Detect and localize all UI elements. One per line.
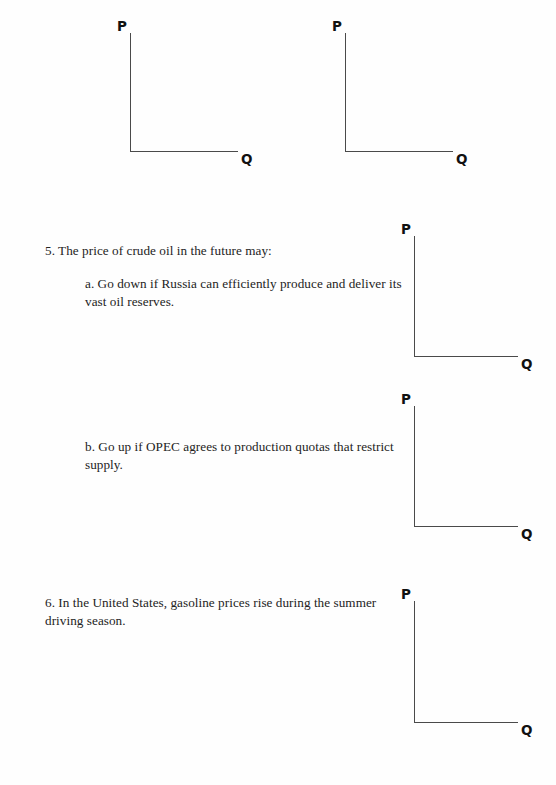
worksheet-page: P Q P Q 5. The price of crude oil in the… (0, 0, 556, 785)
price-axis-line (345, 33, 346, 152)
price-axis-line (130, 33, 131, 152)
question-6-prompt: 6. In the United States, gasoline prices… (45, 594, 395, 629)
price-axis-label: P (117, 20, 127, 34)
question-5b-text: b. Go up if OPEC agrees to production qu… (85, 438, 395, 473)
question-5-prompt: 5. The price of crude oil in the future … (45, 242, 405, 260)
quantity-axis-label: Q (521, 528, 532, 542)
price-axis-label: P (401, 588, 411, 602)
price-axis-label: P (332, 20, 342, 34)
quantity-axis-line (130, 151, 238, 152)
price-axis-label: P (401, 393, 411, 407)
quantity-axis-line (345, 151, 453, 152)
quantity-axis-label: Q (521, 724, 532, 738)
quantity-axis-label: Q (456, 153, 467, 167)
quantity-axis-label: Q (521, 358, 532, 372)
quantity-axis-line (414, 526, 518, 527)
diagram-top-right: P Q (345, 33, 453, 152)
diagram-top-left: P Q (130, 33, 238, 152)
price-axis-line (414, 236, 415, 357)
quantity-axis-label: Q (241, 153, 252, 167)
diagram-q6: P Q (414, 601, 518, 723)
price-axis-label: P (401, 223, 411, 237)
diagram-q5b: P Q (414, 406, 518, 527)
question-5a-text: a. Go down if Russia can efficiently pro… (85, 275, 415, 310)
quantity-axis-line (414, 722, 518, 723)
price-axis-line (414, 601, 415, 723)
diagram-q5a: P Q (414, 236, 518, 357)
quantity-axis-line (414, 356, 518, 357)
price-axis-line (414, 406, 415, 527)
